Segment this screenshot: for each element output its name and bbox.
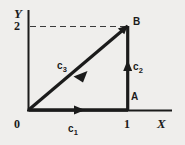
curve-label-c2: c2 — [133, 62, 143, 72]
curve-label-c3-base: c — [57, 60, 63, 71]
curve-c1-arrowhead — [74, 105, 85, 114]
point-label-a: A — [131, 92, 138, 102]
curve-label-c1: c1 — [68, 124, 78, 134]
curve-label-c1-sub: 1 — [74, 128, 78, 137]
x-tick-label-1: 1 — [124, 118, 130, 130]
curve-label-c3: c3 — [57, 61, 67, 71]
curve-label-c1-base: c — [68, 123, 74, 134]
y-tick-label-2: 2 — [14, 20, 20, 32]
curve-c3-path — [29, 26, 128, 110]
curve-c2-arrowhead — [123, 60, 132, 71]
origin-label-0: 0 — [14, 118, 20, 130]
curve-label-c3-sub: 3 — [63, 65, 67, 74]
curve-label-c2-sub: 2 — [139, 66, 143, 75]
point-label-b: B — [133, 17, 140, 27]
curve-c3-arrowhead — [74, 71, 88, 83]
curve-label-c2-base: c — [133, 61, 139, 72]
figure-canvas: Y X 2 0 1 B A c1 c2 c3 — [0, 0, 185, 145]
x-axis-label: X — [157, 117, 166, 130]
